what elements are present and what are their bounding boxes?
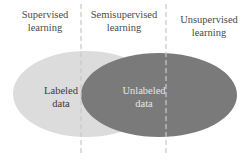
column-header-line1: Supervised (14, 8, 76, 21)
set-label-line1: Labeled (36, 84, 86, 97)
column-header-semisupervised: Semisupervised learning (84, 8, 164, 34)
set-label-unlabeled-data: Unlabeled data (114, 84, 174, 110)
column-header-line2: learning (84, 21, 164, 34)
set-label-line2: data (114, 97, 174, 110)
set-label-labeled-data: Labeled data (36, 84, 86, 110)
column-header-line2: learning (14, 21, 76, 34)
column-header-supervised: Supervised learning (14, 8, 76, 34)
set-label-line2: data (36, 97, 86, 110)
column-header-line1: Unsupervised (174, 13, 244, 26)
column-header-line2: learning (174, 26, 244, 39)
column-header-unsupervised: Unsupervised learning (174, 13, 244, 39)
column-header-line1: Semisupervised (84, 8, 164, 21)
set-label-line1: Unlabeled (114, 84, 174, 97)
